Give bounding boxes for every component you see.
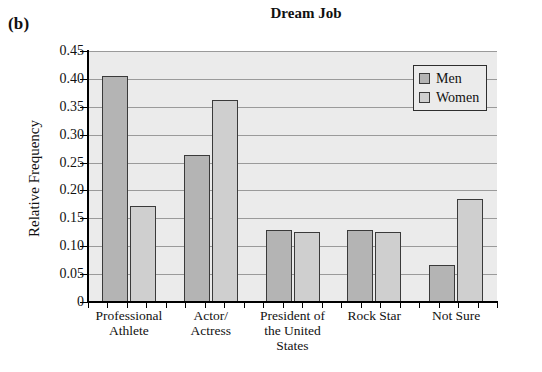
x-category-label: Not Sure <box>415 308 497 323</box>
figure-panel-b: (b) Dream Job Relative Frequency 00.050.… <box>0 0 542 372</box>
x-tick-mark <box>439 303 440 308</box>
gridline <box>88 163 497 164</box>
y-tick-mark <box>80 190 88 191</box>
y-tick-label: 0.45 <box>42 44 84 58</box>
x-category-label-line: Actor/ <box>170 308 252 323</box>
x-category-label: ProfessionalAthlete <box>88 308 170 338</box>
y-tick-label: 0.35 <box>42 100 84 114</box>
x-category-label-line: the United <box>252 323 334 338</box>
bar-men-4 <box>429 265 455 302</box>
gridline <box>88 51 497 52</box>
legend-item-women: Women <box>419 88 479 107</box>
x-tick-mark <box>341 303 342 308</box>
x-tick-mark <box>127 303 128 308</box>
chart-title: Dream Job <box>106 5 506 22</box>
gridline <box>88 135 497 136</box>
x-tick-mark <box>478 303 479 308</box>
y-tick-label: 0.05 <box>42 267 84 281</box>
y-tick-mark <box>80 246 88 247</box>
y-tick-mark <box>80 274 88 275</box>
x-tick-mark <box>166 303 167 308</box>
x-category-label-line: Rock Star <box>333 308 415 323</box>
y-tick-mark <box>80 107 88 108</box>
x-tick-mark <box>88 303 89 308</box>
x-tick-mark <box>224 303 225 308</box>
x-tick-mark <box>400 303 401 308</box>
y-tick-label: 0.10 <box>42 239 84 253</box>
x-category-label: Actor/Actress <box>170 308 252 338</box>
x-tick-mark <box>380 303 381 308</box>
bar-women-1 <box>212 100 238 302</box>
bar-women-2 <box>294 232 320 302</box>
y-tick-label: 0.40 <box>42 72 84 86</box>
x-category-label-line: States <box>252 338 334 353</box>
y-axis-title: Relative Frequency <box>26 79 43 279</box>
legend-item-men: Men <box>419 69 479 88</box>
x-category-label-line: President of <box>252 308 334 323</box>
legend-swatch-icon <box>419 73 430 84</box>
y-tick-mark <box>80 163 88 164</box>
y-tick-label: 0.15 <box>42 211 84 225</box>
x-tick-mark <box>263 303 264 308</box>
y-tick-mark <box>80 135 88 136</box>
legend-swatch-icon <box>419 92 430 103</box>
x-tick-mark <box>283 303 284 308</box>
panel-label: (b) <box>8 14 29 34</box>
x-category-label: Rock Star <box>333 308 415 323</box>
x-tick-mark <box>419 303 420 308</box>
y-tick-label: 0.30 <box>42 128 84 142</box>
x-tick-mark <box>205 303 206 308</box>
x-tick-mark <box>185 303 186 308</box>
legend-label: Women <box>436 91 479 105</box>
x-category-label-line: Not Sure <box>415 308 497 323</box>
x-tick-mark <box>244 303 245 308</box>
bar-men-0 <box>102 76 128 302</box>
x-tick-mark <box>322 303 323 308</box>
y-axis-line <box>87 50 89 303</box>
x-tick-mark <box>107 303 108 308</box>
bar-men-2 <box>266 230 292 302</box>
x-tick-mark <box>497 303 498 308</box>
x-category-label: President ofthe UnitedStates <box>252 308 334 353</box>
bar-women-0 <box>130 206 156 302</box>
x-axis-line <box>87 301 498 303</box>
y-axis-tick-labels: 00.050.100.150.200.250.300.350.400.45 <box>42 38 84 308</box>
x-category-label-line: Actress <box>170 323 252 338</box>
legend-label: Men <box>436 72 462 86</box>
y-tick-label: 0.25 <box>42 156 84 170</box>
gridline <box>88 190 497 191</box>
y-tick-label: 0 <box>42 295 84 309</box>
y-tick-mark <box>80 302 88 303</box>
bar-women-3 <box>375 232 401 302</box>
y-tick-mark <box>80 79 88 80</box>
y-tick-mark <box>80 51 88 52</box>
bar-men-3 <box>347 230 373 302</box>
bar-women-4 <box>457 199 483 302</box>
y-tick-label: 0.20 <box>42 183 84 197</box>
x-tick-mark <box>302 303 303 308</box>
x-tick-mark <box>146 303 147 308</box>
x-category-label-line: Athlete <box>88 323 170 338</box>
chart-legend: MenWomen <box>413 65 487 111</box>
x-category-label-line: Professional <box>88 308 170 323</box>
x-tick-mark <box>458 303 459 308</box>
bar-men-1 <box>184 155 210 302</box>
x-tick-mark <box>361 303 362 308</box>
y-tick-mark <box>80 218 88 219</box>
